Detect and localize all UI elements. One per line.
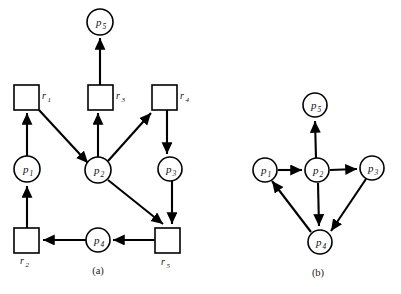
edge-b-p2-to-p4 <box>318 183 319 226</box>
node-p2-a-label: p <box>93 164 100 176</box>
node-p4-a[interactable]: p 4 <box>86 228 110 252</box>
node-p4-b[interactable]: p 4 <box>308 230 332 254</box>
node-p3-a-sub: 3 <box>172 169 177 178</box>
edge-b-p2-to-p5 <box>315 121 316 158</box>
node-r3-a-label: r <box>116 90 120 101</box>
panel-a-caption: (a) <box>92 265 104 277</box>
figure-svg: p 5 r 1 r 3 r 4 p 1 p 2 <box>0 0 401 294</box>
node-p2-b-sub: 2 <box>320 170 324 179</box>
node-p4-b-label: p <box>315 236 322 248</box>
figure-background <box>0 0 401 294</box>
node-r2-a-sub: 2 <box>26 261 30 269</box>
node-p3-a[interactable]: p 3 <box>158 157 182 181</box>
node-p3-a-label: p <box>165 163 172 175</box>
node-p4-b-sub: 4 <box>323 242 327 251</box>
node-p5-b-label: p <box>310 99 317 111</box>
node-p3-b[interactable]: p 3 <box>360 156 384 180</box>
node-p4-a-sub: 4 <box>101 240 105 249</box>
node-p3-b-sub: 3 <box>374 168 379 177</box>
node-r5-a-sub: 5 <box>167 262 171 270</box>
node-r3-a-sub: 3 <box>121 96 126 104</box>
node-r4-a-sub: 4 <box>186 96 190 104</box>
node-r1-a-label: r <box>42 90 46 101</box>
node-p5-a[interactable]: p 5 <box>87 9 113 35</box>
node-p1-a-label: p <box>22 163 29 175</box>
node-p1-b[interactable]: p 1 <box>253 158 277 182</box>
node-p1-a-sub: 1 <box>30 169 34 178</box>
node-p5-a-sub: 5 <box>103 22 107 31</box>
node-p2-b-label: p <box>312 164 319 176</box>
node-r5-a-label: r <box>161 256 165 267</box>
node-p2-a-sub: 2 <box>101 170 105 179</box>
node-p1-b-label: p <box>260 164 267 176</box>
node-p2-a[interactable]: p 2 <box>85 157 111 183</box>
node-p1-a[interactable]: p 1 <box>14 156 40 182</box>
panel-b-caption: (b) <box>312 267 325 279</box>
edge-b-p2-to-p3 <box>330 169 357 170</box>
node-r4-a-label: r <box>180 90 184 101</box>
node-p5-a-label: p <box>95 16 102 28</box>
node-r1-a-sub: 1 <box>48 96 52 104</box>
node-p3-b-label: p <box>367 162 374 174</box>
node-p5-b[interactable]: p 5 <box>303 93 327 117</box>
figure-container: p 5 r 1 r 3 r 4 p 1 p 2 <box>0 0 401 294</box>
node-p5-b-sub: 5 <box>318 105 322 114</box>
node-p4-a-label: p <box>93 234 100 246</box>
node-p1-b-sub: 1 <box>268 170 272 179</box>
node-r2-a-label: r <box>20 255 24 266</box>
node-p2-b[interactable]: p 2 <box>305 158 329 182</box>
